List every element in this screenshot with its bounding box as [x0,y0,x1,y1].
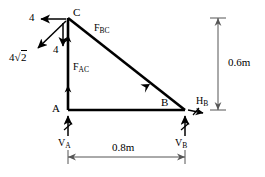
truss-free-body-diagram: C A B FBC FAC 4 4 4√2 VA VB HB 0.6m 0.8m [0,0,265,177]
reaction-label-vb: VB [175,138,187,148]
height-dimension-line [210,18,226,110]
height-dimension-label: 0.6m [228,57,250,68]
member-force-arrowhead-bc [140,84,150,93]
resultant-load-arrow [38,21,66,48]
span-dimension-label: 0.8m [112,142,134,153]
resultant-load-magnitude: 4√2 [9,52,27,63]
vertical-load-magnitude: 4 [53,44,59,55]
horizontal-load-magnitude: 4 [29,12,35,23]
reaction-subscript-hb: B [203,99,208,108]
reaction-label-va: VA [58,138,71,148]
member-force-label-ac: FAC [73,62,89,72]
member-force-subscript-bc: BC [100,26,110,35]
reaction-label-hb: HB [196,96,208,106]
member-force-symbol-ac: F [73,61,79,72]
resultant-load-radicand: 2 [21,50,28,63]
node-label-c: C [73,7,80,18]
node-label-a: A [52,103,60,114]
member-force-label-bc: FBC [94,23,110,33]
member-force-subscript-ac: AC [79,65,89,74]
radical-icon: √ [15,51,21,63]
reaction-subscript-vb: B [182,141,187,150]
member-force-symbol-bc: F [94,22,100,33]
node-label-b: B [161,97,168,108]
reaction-subscript-va: A [65,141,70,150]
